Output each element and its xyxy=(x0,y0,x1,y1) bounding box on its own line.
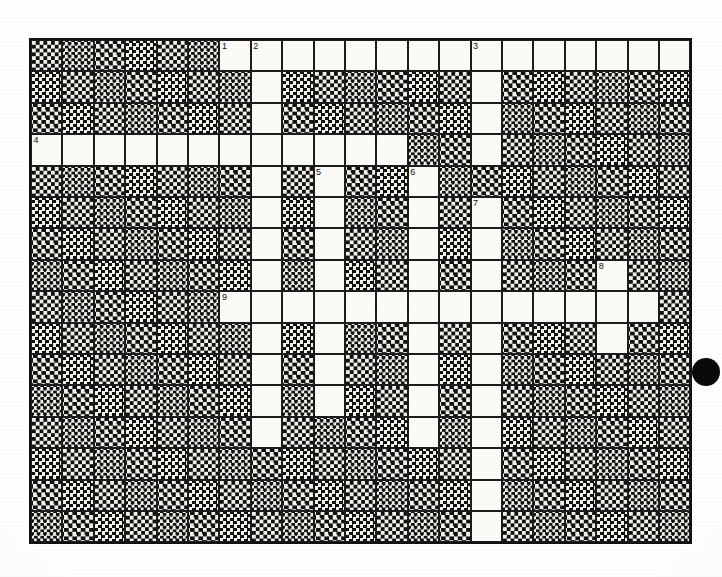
grid-cell-open[interactable] xyxy=(314,197,345,228)
grid-cell-block xyxy=(596,385,627,416)
grid-cell-open[interactable] xyxy=(408,354,439,385)
grid-cell-open[interactable] xyxy=(251,417,282,448)
grid-cell-open[interactable] xyxy=(314,323,345,354)
grid-cell-open[interactable] xyxy=(314,354,345,385)
grid-cell-block xyxy=(659,417,690,448)
grid-cell-open[interactable] xyxy=(471,228,502,259)
grid-cell-block xyxy=(188,448,219,479)
grid-cell-open[interactable] xyxy=(251,134,282,165)
grid-cell-open[interactable] xyxy=(471,511,502,542)
grid-cell-open[interactable] xyxy=(596,291,627,322)
grid-cell-block xyxy=(188,40,219,71)
grid-cell-block xyxy=(659,480,690,511)
grid-cell-open[interactable] xyxy=(376,291,407,322)
grid-cell-block xyxy=(62,166,93,197)
grid-cell-open[interactable]: 3 xyxy=(471,40,502,71)
grid-cell-open[interactable] xyxy=(345,40,376,71)
grid-cell-open[interactable] xyxy=(251,197,282,228)
grid-cell-open[interactable] xyxy=(62,134,93,165)
grid-cell-open[interactable]: 6 xyxy=(408,166,439,197)
grid-cell-block xyxy=(502,480,533,511)
grid-cell-open[interactable] xyxy=(157,134,188,165)
grid-cell-open[interactable] xyxy=(251,228,282,259)
grid-cell-open[interactable] xyxy=(314,385,345,416)
grid-cell-open[interactable]: 7 xyxy=(471,197,502,228)
grid-cell-open[interactable] xyxy=(439,291,470,322)
grid-cell-open[interactable]: 8 xyxy=(596,260,627,291)
grid-cell-block xyxy=(659,71,690,102)
grid-cell-open[interactable] xyxy=(471,103,502,134)
grid-cell-open[interactable] xyxy=(439,40,470,71)
grid-cell-open[interactable] xyxy=(471,323,502,354)
grid-cell-open[interactable] xyxy=(94,134,125,165)
grid-cell-block xyxy=(62,385,93,416)
crossword-grid[interactable]: 123456789 xyxy=(29,38,692,544)
grid-cell-block xyxy=(94,448,125,479)
grid-cell-open[interactable]: 2 xyxy=(251,40,282,71)
grid-cell-open[interactable] xyxy=(471,260,502,291)
grid-cell-open[interactable] xyxy=(408,260,439,291)
grid-cell-block xyxy=(188,228,219,259)
grid-cell-open[interactable] xyxy=(188,134,219,165)
grid-cell-open[interactable] xyxy=(565,291,596,322)
grid-cell-open[interactable] xyxy=(345,291,376,322)
grid-cell-open[interactable] xyxy=(565,40,596,71)
grid-cell-block xyxy=(125,385,156,416)
grid-cell-open[interactable] xyxy=(502,40,533,71)
grid-cell-open[interactable] xyxy=(659,40,690,71)
grid-cell-open[interactable] xyxy=(251,103,282,134)
crossword-grid-container: 123456789 xyxy=(29,38,692,544)
grid-cell-open[interactable] xyxy=(471,385,502,416)
grid-cell-open[interactable] xyxy=(345,134,376,165)
grid-cell-open[interactable] xyxy=(471,291,502,322)
grid-cell-open[interactable] xyxy=(251,291,282,322)
grid-cell-open[interactable] xyxy=(533,291,564,322)
grid-cell-open[interactable] xyxy=(376,134,407,165)
grid-cell-block xyxy=(125,448,156,479)
grid-cell-open[interactable] xyxy=(471,354,502,385)
grid-cell-open[interactable] xyxy=(471,417,502,448)
grid-cell-open[interactable] xyxy=(408,385,439,416)
grid-cell-open[interactable] xyxy=(471,134,502,165)
grid-cell-open[interactable]: 9 xyxy=(219,291,250,322)
grid-cell-block xyxy=(533,197,564,228)
grid-cell-open[interactable] xyxy=(596,40,627,71)
grid-cell-open[interactable] xyxy=(314,134,345,165)
grid-cell-open[interactable] xyxy=(408,323,439,354)
grid-cell-open[interactable] xyxy=(251,260,282,291)
grid-cell-open[interactable] xyxy=(408,228,439,259)
grid-cell-open[interactable] xyxy=(408,197,439,228)
grid-cell-open[interactable] xyxy=(471,448,502,479)
grid-cell-open[interactable] xyxy=(125,134,156,165)
grid-cell-open[interactable] xyxy=(251,354,282,385)
grid-cell-open[interactable] xyxy=(282,40,313,71)
grid-cell-open[interactable] xyxy=(628,291,659,322)
grid-cell-open[interactable] xyxy=(314,228,345,259)
grid-cell-open[interactable] xyxy=(408,40,439,71)
grid-cell-open[interactable] xyxy=(282,134,313,165)
grid-cell-open[interactable] xyxy=(376,40,407,71)
grid-cell-open[interactable] xyxy=(219,134,250,165)
grid-cell-open[interactable] xyxy=(628,40,659,71)
grid-cell-open[interactable] xyxy=(471,480,502,511)
grid-cell-open[interactable] xyxy=(282,291,313,322)
grid-cell-open[interactable] xyxy=(314,40,345,71)
grid-cell-open[interactable]: 5 xyxy=(314,166,345,197)
grid-cell-open[interactable] xyxy=(251,166,282,197)
grid-cell-open[interactable] xyxy=(502,291,533,322)
grid-cell-open[interactable]: 4 xyxy=(31,134,62,165)
grid-cell-open[interactable] xyxy=(251,71,282,102)
grid-cell-open[interactable] xyxy=(314,291,345,322)
grid-cell-open[interactable] xyxy=(314,260,345,291)
grid-cell-open[interactable]: 1 xyxy=(219,40,250,71)
grid-cell-block xyxy=(31,480,62,511)
grid-cell-open[interactable] xyxy=(471,71,502,102)
grid-cell-open[interactable] xyxy=(596,323,627,354)
grid-cell-open[interactable] xyxy=(533,40,564,71)
grid-cell-open[interactable] xyxy=(408,291,439,322)
grid-cell-open[interactable] xyxy=(408,417,439,448)
grid-cell-open[interactable] xyxy=(251,323,282,354)
grid-cell-open[interactable] xyxy=(251,385,282,416)
grid-cell-block xyxy=(533,134,564,165)
grid-cell-block xyxy=(596,448,627,479)
